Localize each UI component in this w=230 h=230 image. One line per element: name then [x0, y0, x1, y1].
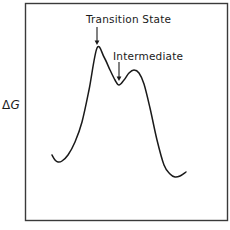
y-axis-label-symbol: G: [11, 98, 21, 112]
annotation-label-transition-state: Transition State: [86, 13, 171, 25]
plot-frame: [26, 4, 228, 221]
energy-diagram-figure: ΔG Transition State Intermediate: [0, 0, 230, 230]
y-axis-label: ΔG: [2, 98, 20, 112]
energy-diagram-canvas: [0, 0, 230, 230]
y-axis-label-delta: Δ: [2, 98, 11, 112]
annotation-label-intermediate: Intermediate: [113, 50, 183, 62]
